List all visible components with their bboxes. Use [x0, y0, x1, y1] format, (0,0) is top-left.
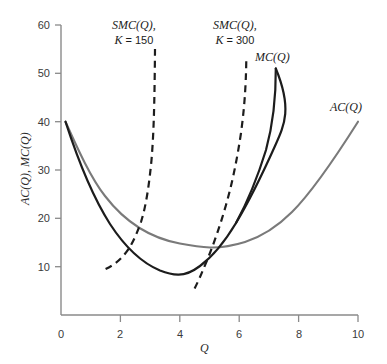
label-smc-k300-line1: SMC(Q), — [213, 18, 257, 32]
label-smc-k300-k: K — [215, 33, 223, 47]
x-tick-label-4: 4 — [167, 328, 193, 340]
x-axis-title: Q — [200, 341, 209, 356]
x-tick-label-10: 10 — [345, 328, 371, 340]
cost-curves-figure: 60 50 40 30 20 10 0 2 4 6 8 10 AC(Q), MC… — [0, 0, 387, 364]
x-tick-label-2: 2 — [107, 328, 133, 340]
y-tick-label-50: 50 — [24, 67, 50, 79]
y-tick-label-40: 40 — [24, 116, 50, 128]
y-axis-ticks — [55, 25, 61, 267]
y-tick-label-20: 20 — [24, 212, 50, 224]
label-smc-k150-k: K — [114, 33, 122, 47]
label-mc: MC(Q) — [255, 50, 290, 65]
x-tick-label-8: 8 — [286, 328, 312, 340]
curve-smc-k300 — [195, 59, 247, 289]
chart-plot-area — [0, 0, 387, 364]
curve-smc-k150 — [106, 49, 155, 269]
curve-mc — [66, 69, 286, 275]
curve-mc-upper — [236, 69, 276, 224]
label-smc-k150: SMC(Q), K = 150 — [112, 18, 156, 47]
label-smc-k150-line1: SMC(Q), — [112, 18, 156, 32]
y-tick-label-10: 10 — [24, 261, 50, 273]
label-smc-k300-value: = 300 — [226, 34, 254, 46]
x-tick-label-0: 0 — [48, 328, 74, 340]
y-axis-title: AC(Q), MC(Q) — [18, 132, 33, 205]
x-tick-label-6: 6 — [226, 328, 252, 340]
label-ac: AC(Q) — [330, 100, 362, 115]
curve-ac — [66, 122, 359, 248]
label-smc-k300: SMC(Q), K = 300 — [213, 18, 257, 47]
axis-lines — [61, 25, 358, 315]
label-smc-k150-value: = 150 — [125, 34, 153, 46]
y-tick-label-60: 60 — [24, 19, 50, 31]
x-axis-ticks — [120, 315, 358, 322]
